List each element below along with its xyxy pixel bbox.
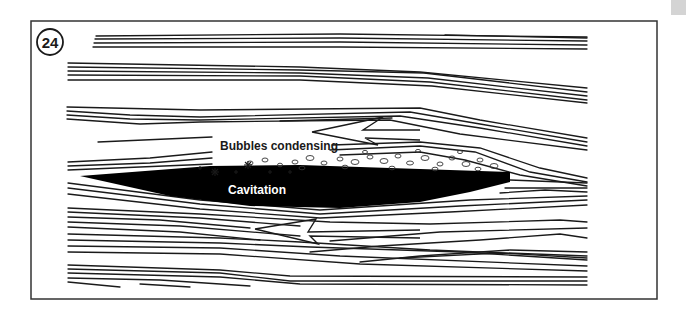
figure-number: 24 (42, 34, 59, 51)
burst-icon (244, 161, 252, 169)
streamlines (67, 34, 587, 287)
burst-icon (211, 168, 219, 176)
figure-number-badge: 24 (37, 29, 63, 55)
figure-frame (31, 21, 657, 299)
cavitation-label: Cavitation (228, 183, 286, 197)
bubbles-condensing-label: Bubbles condensing (220, 139, 338, 153)
cavitation-diagram: 24 (0, 0, 686, 315)
